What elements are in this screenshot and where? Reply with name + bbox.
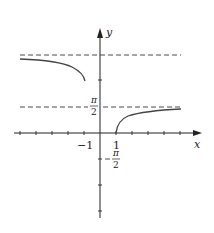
svg-text:π: π	[112, 148, 120, 158]
x-axis-label: x	[194, 138, 201, 151]
svg-text:2: 2	[113, 160, 119, 170]
y-axis-label: y	[105, 26, 113, 39]
svg-text:π: π	[90, 95, 98, 105]
y-tick-label-neg-pi-over-2: π 2	[105, 148, 120, 170]
x-tick-label-neg-one: −1	[77, 139, 93, 152]
y-axis-arrow-icon	[97, 28, 103, 38]
left-branch-curve	[20, 59, 85, 81]
svg-text:2: 2	[91, 107, 97, 117]
right-branch-curve	[116, 109, 181, 133]
y-tick-label-pi-over-2: π 2	[90, 95, 98, 117]
x-axis-arrow-icon	[193, 130, 202, 136]
arcsec-graph: y x −1 1 π 2 π 2	[0, 0, 214, 233]
